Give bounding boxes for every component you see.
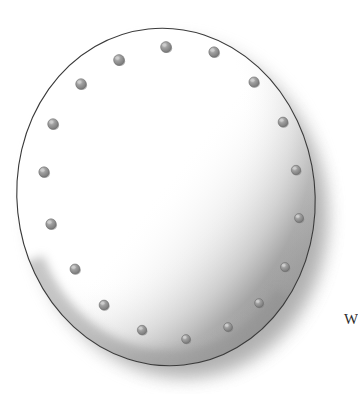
fastener-stud-body [99,300,109,310]
fastener-stud-body [281,263,290,272]
fastener-stud-highlight [162,43,166,46]
fastener-stud-highlight [72,266,76,269]
fastener-stud-highlight [282,264,286,267]
fastener-stud-body [291,165,300,174]
fastener-stud-highlight [296,215,300,218]
fastener-stud-highlight [293,167,297,170]
fastener-stud-highlight [210,49,214,52]
fastener-stud-body [209,47,219,57]
fastener-stud-body [224,323,233,332]
fastener-stud-highlight [40,169,44,172]
fastener-stud-highlight [250,79,254,82]
fastener-stud-body [114,55,125,66]
fastener-stud-highlight [280,119,284,122]
fastener-stud-body [278,117,288,127]
fastener-stud-body [182,335,191,344]
fastener-stud-body [70,264,80,274]
fastener-stud-body [255,299,264,308]
fastener-stud-highlight [49,121,53,124]
fastener-stud-body [48,119,59,130]
fastener-stud-highlight [183,336,187,339]
fastener-stud-highlight [101,302,105,305]
fastener-stud-body [137,325,146,334]
fastener-stud-highlight [139,327,143,330]
fastener-stud-highlight [77,81,81,84]
fastener-stud-body [39,167,49,177]
fastener-stud-body [295,214,304,223]
fastener-stud-body [76,79,87,90]
fastener-stud-body [46,219,56,229]
fastener-stud-body [249,77,259,87]
fastener-stud-highlight [225,324,229,327]
fastener-stud-highlight [256,300,260,303]
fastener-stud-body [161,42,172,53]
fastener-stud-highlight [47,221,51,224]
edge-caption-fragment: W [344,312,358,327]
fastener-stud-highlight [115,56,119,59]
